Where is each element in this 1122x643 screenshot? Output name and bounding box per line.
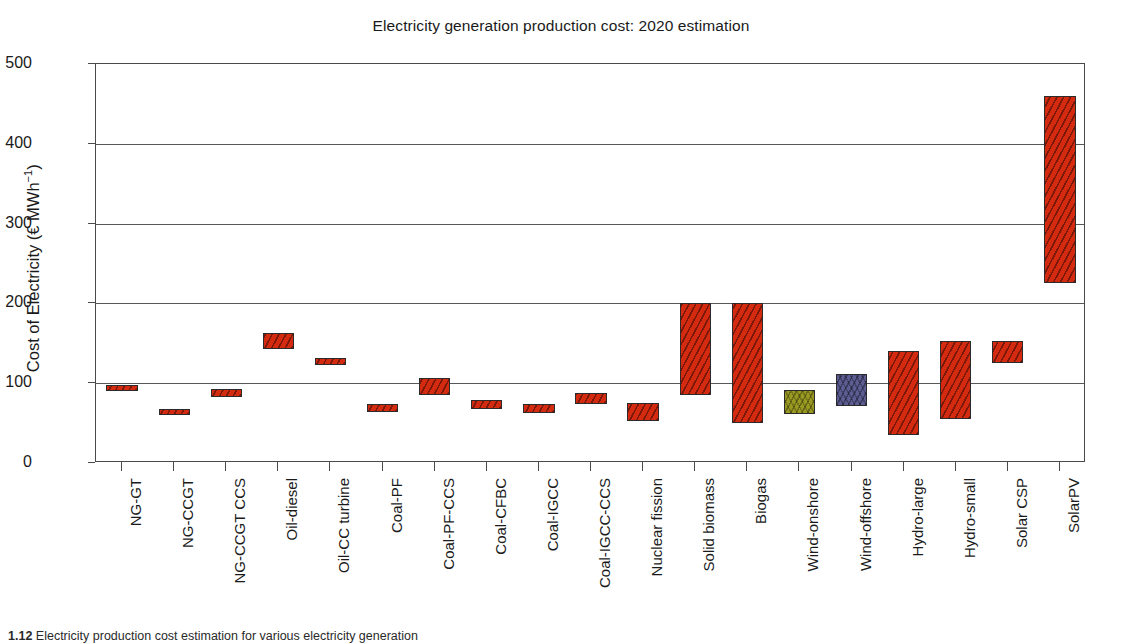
y-tick-mark-200 <box>88 302 95 303</box>
gridline-300 <box>96 224 1084 225</box>
x-axis-label-coal-pf: Coal-PF <box>388 478 405 533</box>
x-tick-mark-9 <box>590 462 591 471</box>
bar-coal-pf <box>367 404 398 412</box>
gridline-200 <box>96 303 1084 304</box>
x-tick-mark-18 <box>1059 462 1060 471</box>
y-axis-title-text: Cost of Electricity (€ MWh−1) <box>23 164 41 372</box>
bar-oil-diesel <box>263 333 294 349</box>
bar-wind-offshore <box>836 374 867 406</box>
x-tick-mark-16 <box>955 462 956 471</box>
x-tick-mark-3 <box>277 462 278 471</box>
x-tick-mark-2 <box>225 462 226 471</box>
gridline-100 <box>96 383 1084 384</box>
bar-coal-igcc <box>523 404 554 413</box>
x-tick-mark-0 <box>121 462 122 471</box>
y-tick-mark-0 <box>88 462 95 463</box>
bar-coal-pf-ccs <box>419 378 450 395</box>
x-axis-label-biogas: Biogas <box>752 478 769 524</box>
x-axis-label-solarpv: SolarPV <box>1065 478 1082 533</box>
gridline-400 <box>96 144 1084 145</box>
x-axis-label-hydro-large: Hydro-large <box>909 478 926 556</box>
y-tick-mark-500 <box>88 63 95 64</box>
y-tick-label-500: 500 <box>0 54 32 72</box>
x-tick-mark-10 <box>642 462 643 471</box>
x-axis-label-coal-pf-ccs: Coal-PF-CCS <box>440 478 457 570</box>
x-tick-mark-14 <box>851 462 852 471</box>
x-axis-label-solid-biomass: Solid biomass <box>700 478 717 571</box>
x-tick-mark-12 <box>746 462 747 471</box>
x-axis-label-wind-onshore: Wind-onshore <box>804 478 821 571</box>
bar-coal-igcc-ccs <box>575 393 606 404</box>
bar-solar-csp <box>992 341 1023 363</box>
bar-ng-ccgt <box>159 409 190 415</box>
bar-solid-biomass <box>680 303 711 395</box>
x-axis-label-oil-diesel: Oil-diesel <box>283 478 300 541</box>
bar-nuclear-fission <box>627 403 658 421</box>
x-tick-mark-4 <box>329 462 330 471</box>
x-axis-label-ng-ccgt: NG-CCGT <box>179 478 196 548</box>
x-tick-mark-15 <box>903 462 904 471</box>
x-axis-label-coal-igcc-ccs: Coal-IGCC-CCS <box>596 478 613 588</box>
chart-title: Electricity generation production cost: … <box>0 17 1122 35</box>
plot-area <box>95 63 1085 462</box>
bar-solarpv <box>1044 96 1075 284</box>
y-tick-label-100: 100 <box>0 373 32 391</box>
y-tick-label-200: 200 <box>0 293 32 311</box>
x-tick-mark-7 <box>486 462 487 471</box>
y-tick-mark-300 <box>88 223 95 224</box>
x-axis-label-solar-csp: Solar CSP <box>1013 478 1030 548</box>
x-tick-mark-17 <box>1007 462 1008 471</box>
x-tick-mark-5 <box>382 462 383 471</box>
x-axis-label-oil-cc-turbine: Oil-CC turbine <box>335 478 352 573</box>
x-axis-label-coal-igcc: Coal-IGCC <box>544 478 561 551</box>
y-tick-label-0: 0 <box>0 453 32 471</box>
bar-ng-gt <box>106 385 137 391</box>
y-tick-mark-100 <box>88 382 95 383</box>
x-tick-mark-6 <box>434 462 435 471</box>
bar-wind-onshore <box>784 390 815 414</box>
y-tick-label-400: 400 <box>0 134 32 152</box>
x-tick-mark-11 <box>694 462 695 471</box>
bar-ng-ccgt-ccs <box>211 389 242 397</box>
x-axis-label-nuclear-fission: Nuclear fission <box>648 478 665 576</box>
bar-coal-cfbc <box>471 400 502 409</box>
y-axis-title: Cost of Electricity (€ MWh−1) <box>22 68 43 468</box>
x-tick-mark-13 <box>798 462 799 471</box>
bar-hydro-large <box>888 351 919 435</box>
figure-caption: 1.12 Electricity production cost estimat… <box>8 629 1108 643</box>
x-axis-label-ng-ccgt-ccs: NG-CCGT CCS <box>231 478 248 584</box>
bar-hydro-small <box>940 341 971 419</box>
bar-biogas <box>732 303 763 423</box>
bar-oil-cc-turbine <box>315 358 346 364</box>
figure-number: 1.12 <box>8 629 32 643</box>
x-tick-mark-8 <box>538 462 539 471</box>
y-tick-label-300: 300 <box>0 214 32 232</box>
y-tick-mark-400 <box>88 143 95 144</box>
x-axis-label-coal-cfbc: Coal-CFBC <box>492 478 509 555</box>
figure-caption-text: Electricity production cost estimation f… <box>36 629 418 643</box>
x-axis-label-wind-offshore: Wind-offshore <box>857 478 874 571</box>
x-tick-mark-1 <box>173 462 174 471</box>
x-axis-label-ng-gt: NG-GT <box>127 478 144 526</box>
x-axis-label-hydro-small: Hydro-small <box>961 478 978 558</box>
